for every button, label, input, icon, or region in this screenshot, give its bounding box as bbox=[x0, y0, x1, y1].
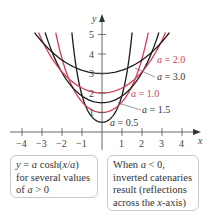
x-tick-label: −2 bbox=[56, 138, 67, 149]
y-tick-label: 3 bbox=[89, 68, 94, 79]
x-tick-label: −4 bbox=[16, 138, 27, 149]
x-tick-label: 1 bbox=[119, 138, 124, 149]
note-right: When a < 0, inverted catenaries result (… bbox=[107, 155, 199, 211]
y-tick-label: 5 bbox=[89, 29, 94, 40]
x-tick-label: 3 bbox=[159, 138, 164, 149]
label-a3: a = 3.0 bbox=[157, 71, 185, 82]
note-left: y = a cosh(x/a) for several values of a … bbox=[10, 155, 98, 198]
leader-a15 bbox=[118, 103, 141, 110]
y-tick-label: 2 bbox=[89, 88, 94, 99]
label-a2: a = 2.0 bbox=[157, 54, 185, 65]
y-tick-label: 4 bbox=[89, 49, 94, 60]
x-tick-label: 4 bbox=[179, 138, 184, 149]
y-axis-arrow-icon bbox=[99, 14, 105, 22]
label-a1: a = 1.0 bbox=[131, 88, 159, 99]
y-axis-label: y bbox=[91, 13, 97, 24]
y-tick-label: 1 bbox=[89, 107, 94, 118]
label-a05: a = 0.5 bbox=[110, 117, 138, 128]
x-tick-label: −3 bbox=[36, 138, 47, 149]
x-tick-label: 2 bbox=[139, 138, 144, 149]
label-a15: a = 1.5 bbox=[142, 104, 170, 115]
x-axis-label: x bbox=[197, 135, 203, 146]
x-tick-label: −1 bbox=[76, 138, 87, 149]
x-ticks: −4−3−2−11234 bbox=[16, 128, 184, 149]
